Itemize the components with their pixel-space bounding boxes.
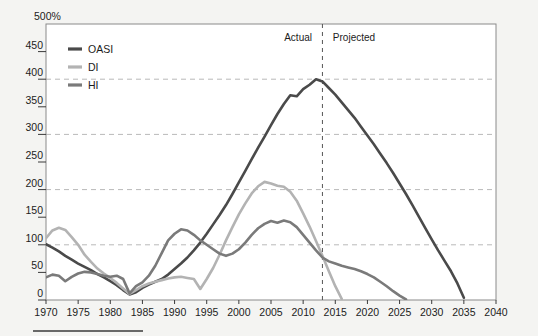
xtick-label-2000: 2000	[227, 306, 251, 318]
ytick-label-100: 100	[25, 232, 43, 244]
legend-label-oasi: OASI	[88, 43, 113, 55]
xtick-label-1990: 1990	[163, 306, 187, 318]
xtick-label-2020: 2020	[356, 306, 380, 318]
xtick-label-1995: 1995	[195, 306, 219, 318]
xtick-label-1985: 1985	[131, 306, 155, 318]
legend-label-di: DI	[88, 61, 99, 73]
xtick-label-2005: 2005	[259, 306, 283, 318]
xtick-label-2010: 2010	[291, 306, 315, 318]
ytick-label-150: 150	[25, 204, 43, 216]
plot-area	[46, 24, 496, 300]
ytick-label-300: 300	[25, 121, 43, 133]
ytick-label-400: 400	[25, 66, 43, 78]
legend-label-hi: HI	[88, 79, 99, 91]
ytick-label-450: 450	[25, 39, 43, 51]
xtick-label-2030: 2030	[420, 306, 444, 318]
xtick-label-2035: 2035	[452, 306, 476, 318]
projected-label: Projected	[333, 32, 375, 43]
y-axis-unit-label: 500%	[34, 10, 61, 22]
actual-label: Actual	[284, 32, 312, 43]
ytick-label-50: 50	[31, 259, 43, 271]
ytick-label-250: 250	[25, 149, 43, 161]
chart-canvas: 050100150200250300350400450500%197019751…	[0, 0, 538, 336]
xtick-label-2025: 2025	[388, 306, 412, 318]
xtick-label-1970: 1970	[34, 306, 58, 318]
figure: 050100150200250300350400450500%197019751…	[0, 0, 538, 336]
ytick-label-350: 350	[25, 94, 43, 106]
xtick-label-1980: 1980	[99, 306, 123, 318]
ytick-label-200: 200	[25, 177, 43, 189]
ytick-label-0: 0	[37, 287, 43, 299]
xtick-label-2015: 2015	[324, 306, 348, 318]
xtick-label-2040: 2040	[484, 306, 508, 318]
xtick-label-1975: 1975	[66, 306, 90, 318]
